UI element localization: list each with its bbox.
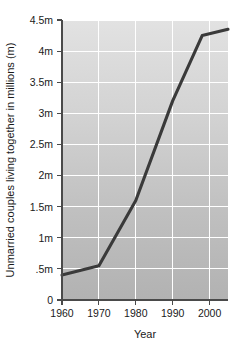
x-tick-label: 1990 <box>161 307 185 319</box>
y-tick-label: 3m <box>38 107 53 119</box>
y-axis-tick-labels: 4.5m 4m 3.5m 3m 2.5m 2m 1.5m 1m .5m 0 <box>30 14 54 306</box>
y-tick-label: 2.5m <box>30 138 54 150</box>
y-tick-label: 1m <box>38 232 53 244</box>
chart-canvas: 4.5m 4m 3.5m 3m 2.5m 2m 1.5m 1m .5m 0 19… <box>0 0 242 344</box>
y-tick-label: 1.5m <box>30 201 54 213</box>
line-chart-figure: 4.5m 4m 3.5m 3m 2.5m 2m 1.5m 1m .5m 0 19… <box>0 0 242 344</box>
x-axis-title: Year <box>134 328 157 340</box>
x-tick-label: 1970 <box>87 307 111 319</box>
x-tick-label: 2000 <box>198 307 222 319</box>
y-tick-label: .5m <box>35 263 53 275</box>
y-tick-label: 0 <box>47 294 53 306</box>
x-tick-label: 1980 <box>124 307 148 319</box>
y-tick-label: 4.5m <box>30 14 54 26</box>
x-axis-tick-marks <box>62 300 210 305</box>
x-axis-tick-labels: 1960 1970 1980 1990 2000 <box>50 307 221 319</box>
y-axis-title: Unmarried couples living together in mil… <box>4 43 16 278</box>
y-axis-tick-marks <box>57 20 62 300</box>
plot-area-background <box>62 20 228 300</box>
y-tick-label: 3.5m <box>30 76 54 88</box>
x-tick-label: 1960 <box>50 307 74 319</box>
y-tick-label: 2m <box>38 169 53 181</box>
y-tick-label: 4m <box>38 45 53 57</box>
